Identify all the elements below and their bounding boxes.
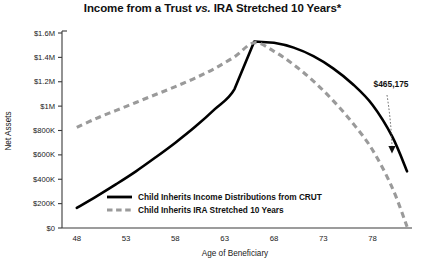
y-tick-label: $400K xyxy=(33,175,55,184)
y-tick-label: $600K xyxy=(33,150,55,159)
legend-label-1: Child Inherits Income Distributions from… xyxy=(138,192,322,202)
chart-legend: Child Inherits Income Distributions from… xyxy=(107,192,322,215)
x-tick-label: 73 xyxy=(319,234,328,243)
chart-annotations: $465,175 xyxy=(374,79,409,154)
y-tick-label: $1.6M xyxy=(34,29,55,38)
x-tick-label: 78 xyxy=(368,234,377,243)
x-axis-title: Age of Beneficiary xyxy=(202,249,269,258)
y-tick-label: $1.2M xyxy=(34,77,55,86)
x-tick-label: 53 xyxy=(122,234,131,243)
y-tick-label: $200K xyxy=(33,199,55,208)
annotation-arrowhead xyxy=(388,146,395,154)
chart-figure: Income from a Trust vs. IRA Stretched 10… xyxy=(0,0,425,260)
x-axis: 48535863687378 xyxy=(62,228,412,243)
y-tick-label: $1.4M xyxy=(34,53,55,62)
y-tick-label: $1M xyxy=(40,102,55,111)
y-tick-label: $800K xyxy=(33,126,55,135)
x-tick-label: 63 xyxy=(220,234,229,243)
y-axis-title: Net Assets xyxy=(4,111,13,150)
y-tick-label: $0 xyxy=(47,224,55,233)
line-chart-plot: $0$200K$400K$600K$800K$1M$1.2M$1.4M$1.6M… xyxy=(0,0,425,260)
x-tick-label: 58 xyxy=(171,234,180,243)
y-axis: $0$200K$400K$600K$800K$1M$1.2M$1.4M$1.6M xyxy=(33,29,67,233)
x-tick-label: 68 xyxy=(270,234,279,243)
legend-label-2: Child Inherits IRA Stretched 10 Years xyxy=(138,205,284,215)
annotation-label: $465,175 xyxy=(374,79,409,89)
series-line-1 xyxy=(77,42,407,208)
annotation-leader-line xyxy=(387,95,392,146)
x-tick-label: 48 xyxy=(72,234,81,243)
